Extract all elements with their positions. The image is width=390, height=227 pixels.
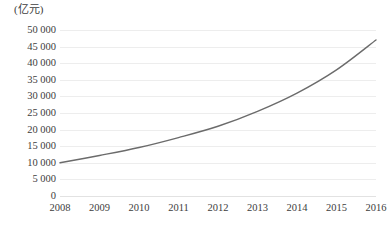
y-axis-tick-label: 5 000: [4, 173, 56, 184]
x-axis-tick-label: 2010: [119, 201, 159, 214]
gridline: [60, 196, 376, 197]
y-axis-tick-label: 45 000: [4, 41, 56, 52]
x-axis-tick-label: 2014: [277, 201, 317, 214]
series-line: [60, 30, 376, 196]
y-axis-tick-label: 20 000: [4, 124, 56, 135]
x-axis-tick-label: 2013: [238, 201, 278, 214]
x-axis-tick-label: 2012: [198, 201, 238, 214]
y-axis-tick-label: 50 000: [4, 24, 56, 35]
y-axis-tick-label: 40 000: [4, 57, 56, 68]
x-axis-tick-label: 2011: [159, 201, 199, 214]
plot-area: [60, 30, 376, 196]
x-axis-tick-label: 2016: [356, 201, 390, 214]
y-axis-tick-label: 30 000: [4, 90, 56, 101]
y-axis-tick-labels: 50 00045 00040 00035 00030 00025 00020 0…: [0, 0, 56, 227]
series-line-path: [60, 40, 376, 163]
line-chart: (亿元) 50 00045 00040 00035 00030 00025 00…: [0, 0, 390, 227]
y-axis-tick-label: 10 000: [4, 157, 56, 168]
y-axis-tick-label: 15 000: [4, 140, 56, 151]
x-axis-tick-label: 2015: [317, 201, 357, 214]
y-axis-tick-label: 25 000: [4, 107, 56, 118]
y-axis-tick-label: 0: [4, 190, 56, 201]
x-axis-tick-label: 2009: [80, 201, 120, 214]
x-axis-tick-label: 2008: [40, 201, 80, 214]
x-axis-tick-labels: 200820092010201120122013201420152016: [60, 201, 376, 217]
y-axis-tick-label: 35 000: [4, 74, 56, 85]
